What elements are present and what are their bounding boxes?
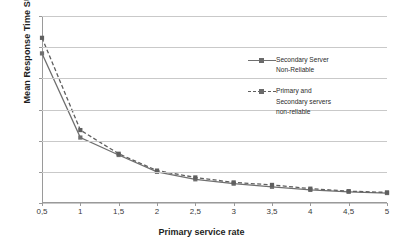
legend-label-1-line2: Non-Reliable <box>276 66 314 73</box>
data-point-marker <box>78 128 82 132</box>
legend-label-2-line2: Secondary servers <box>276 98 331 105</box>
x-tick-mark <box>234 203 235 206</box>
x-tick-label: 5 <box>375 207 399 216</box>
chart-legend: Secondary Server Non-Reliable Primary an… <box>248 55 398 128</box>
x-tick-label: 3 <box>222 207 246 216</box>
data-point-marker <box>308 187 312 191</box>
y-axis-title: Mean Response Time SU <box>22 0 32 124</box>
data-point-marker <box>40 36 44 40</box>
gridline <box>42 141 387 142</box>
data-point-marker <box>270 183 274 187</box>
y-tick-mark <box>39 141 42 142</box>
data-point-marker <box>385 190 389 194</box>
x-tick-mark <box>119 203 120 206</box>
legend-label-1: Secondary Server Non-Reliable <box>276 55 398 75</box>
x-tick-label: 1,5 <box>107 207 131 216</box>
y-tick-mark <box>39 16 42 17</box>
x-tick-label: 1 <box>68 207 92 216</box>
x-tick-label: 3,5 <box>260 207 284 216</box>
data-point-marker <box>193 175 197 179</box>
x-tick-label: 4 <box>298 207 322 216</box>
legend-label-2: Primary and Secondary servers non-reliab… <box>276 86 398 117</box>
x-tick-label: 4,5 <box>337 207 361 216</box>
chart-container: Mean Response Time SU Primary service ra… <box>0 0 403 249</box>
gridline <box>42 16 387 17</box>
legend-label-2-line3: non-reliable <box>276 108 310 115</box>
data-point-marker <box>117 152 121 156</box>
x-axis-title: Primary service rate <box>0 227 403 237</box>
legend-label-1-line1: Secondary Server <box>276 56 329 63</box>
y-tick-mark <box>39 47 42 48</box>
x-tick-mark <box>80 203 81 206</box>
x-tick-label: 0,5 <box>30 207 54 216</box>
legend-item-primary-and-secondary[interactable]: Primary and Secondary servers non-reliab… <box>248 86 398 117</box>
x-tick-mark <box>272 203 273 206</box>
legend-key-dashed-square-icon <box>248 87 276 96</box>
legend-label-2-line1: Primary and <box>276 87 312 94</box>
gridline <box>42 203 387 204</box>
y-tick-mark <box>39 78 42 79</box>
x-tick-label: 2 <box>145 207 169 216</box>
gridline <box>42 47 387 48</box>
data-point-marker <box>40 51 44 55</box>
x-tick-mark <box>157 203 158 206</box>
x-tick-mark <box>310 203 311 206</box>
x-tick-label: 2,5 <box>183 207 207 216</box>
y-tick-mark <box>39 110 42 111</box>
x-tick-mark <box>349 203 350 206</box>
data-point-marker <box>78 135 82 139</box>
data-point-marker <box>347 189 351 193</box>
y-tick-mark <box>39 172 42 173</box>
legend-item-secondary-server[interactable]: Secondary Server Non-Reliable <box>248 55 398 75</box>
legend-key-solid-square-icon <box>248 56 276 65</box>
x-tick-mark <box>387 203 388 206</box>
gridline <box>42 172 387 173</box>
data-point-marker <box>232 180 236 184</box>
x-tick-mark <box>195 203 196 206</box>
x-tick-mark <box>42 203 43 206</box>
